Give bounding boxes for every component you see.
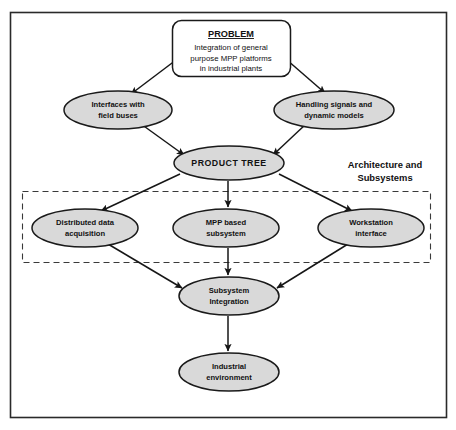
node-mpp-based-subsystem[interactable]: MPP based subsystem bbox=[173, 209, 279, 247]
node-ellipse bbox=[318, 209, 424, 247]
node-label-line-1: Workstation bbox=[349, 218, 393, 227]
node-handling-signals-and-dynamic-models[interactable]: Handling signals and dynamic models bbox=[274, 91, 394, 129]
region-label-line-2: Subsystems bbox=[357, 172, 412, 183]
node-label-line-2: field buses bbox=[98, 111, 138, 120]
problem-box-line-2: purpose MPP platforms bbox=[190, 54, 271, 63]
node-label-line-1: PRODUCT TREE bbox=[191, 158, 266, 168]
node-label-line-2: dynamic models bbox=[304, 111, 364, 120]
node-label-line-2: Integration bbox=[209, 297, 249, 306]
node-label-line-2: interface bbox=[355, 229, 387, 238]
problem-box-line-3: in industrial plants bbox=[200, 64, 263, 73]
node-ellipse bbox=[179, 353, 279, 391]
node-ellipse bbox=[64, 91, 172, 129]
node-label-line-2: subsystem bbox=[206, 229, 246, 238]
diagram-canvas: PROBLEM Integration of general purpose M… bbox=[0, 0, 456, 430]
node-industrial-environment[interactable]: Industrial environment bbox=[179, 353, 279, 391]
node-label-line-1: Distributed data bbox=[56, 218, 115, 227]
node-distributed-data-acquisition[interactable]: Distributed data acquisition bbox=[32, 209, 138, 247]
node-subsystem-integration[interactable]: Subsystem Integration bbox=[179, 277, 279, 315]
diagram-root: PROBLEM Integration of general purpose M… bbox=[0, 0, 456, 430]
node-ellipse bbox=[179, 277, 279, 315]
problem-box[interactable]: PROBLEM Integration of general purpose M… bbox=[173, 21, 291, 77]
node-label-line-1: Handling signals and bbox=[296, 100, 373, 109]
node-ellipse bbox=[173, 209, 279, 247]
node-workstation-interface[interactable]: Workstation interface bbox=[318, 209, 424, 247]
node-interfaces-with-field-buses[interactable]: Interfaces with field buses bbox=[64, 91, 172, 129]
node-label-line-1: MPP based bbox=[206, 218, 247, 227]
region-label-line-1: Architecture and bbox=[348, 159, 423, 170]
problem-box-line-1: Integration of general bbox=[194, 43, 268, 52]
node-ellipse bbox=[274, 91, 394, 129]
node-ellipse bbox=[32, 209, 138, 247]
node-product-tree[interactable]: PRODUCT TREE bbox=[174, 146, 284, 180]
problem-box-title: PROBLEM bbox=[208, 29, 254, 39]
node-label-line-2: acquisition bbox=[65, 229, 105, 238]
node-label-line-2: environment bbox=[206, 373, 252, 382]
node-label-line-1: Interfaces with bbox=[91, 100, 145, 109]
node-label-line-1: Subsystem bbox=[209, 286, 250, 295]
node-label-line-1: Industrial bbox=[212, 362, 246, 371]
